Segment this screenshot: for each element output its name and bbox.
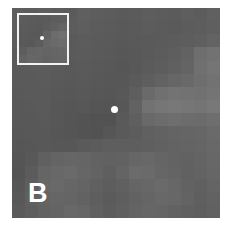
pixel-cell [155, 34, 168, 47]
inset-marker-dot [40, 36, 44, 40]
pixel-cell [77, 21, 90, 34]
pixel-cell [12, 74, 25, 87]
pixel-cell [207, 166, 220, 179]
pixel-cell [142, 205, 155, 218]
pixel-cell [77, 192, 90, 205]
pixel-cell [168, 87, 181, 100]
pixel-cell [155, 179, 168, 192]
pixel-cell [168, 179, 181, 192]
inset-pixel-cell [27, 15, 35, 23]
pixel-cell [181, 152, 194, 165]
pixel-cell [90, 205, 103, 218]
pixel-cell [64, 192, 77, 205]
pixel-cell [181, 47, 194, 60]
pixel-cell [103, 192, 116, 205]
inset-pixel-cell [51, 15, 59, 23]
pixel-cell [77, 139, 90, 152]
pixel-cell [155, 100, 168, 113]
pixel-cell [116, 179, 129, 192]
inset-pixel-cell [43, 15, 51, 23]
pixel-cell [116, 113, 129, 126]
pixel-cell [207, 100, 220, 113]
inset-pixel-cell [51, 39, 59, 47]
pixel-cell [168, 8, 181, 21]
pixel-cell [194, 205, 207, 218]
pixel-cell [194, 34, 207, 47]
inset-overview [17, 13, 69, 65]
pixel-cell [12, 179, 25, 192]
pixel-cell [142, 100, 155, 113]
inset-pixel-cell [59, 47, 67, 55]
inset-pixel-cell [35, 23, 43, 31]
pixel-cell [129, 8, 142, 21]
pixel-cell [116, 192, 129, 205]
pixel-cell [38, 126, 51, 139]
pixel-cell [207, 21, 220, 34]
pixel-cell [155, 152, 168, 165]
pixel-cell [155, 21, 168, 34]
pixel-cell [77, 100, 90, 113]
pixel-cell [12, 152, 25, 165]
inset-pixel-cell [19, 55, 27, 63]
pixel-cell [116, 126, 129, 139]
pixel-cell [103, 113, 116, 126]
pixel-cell [181, 205, 194, 218]
pixel-cell [25, 74, 38, 87]
pixel-cell [77, 61, 90, 74]
pixel-cell [77, 152, 90, 165]
pixel-cell [90, 74, 103, 87]
pixel-cell [129, 47, 142, 60]
pixel-cell [116, 74, 129, 87]
pixel-cell [103, 34, 116, 47]
pixel-cell [194, 166, 207, 179]
pixel-cell [168, 152, 181, 165]
pixel-cell [168, 61, 181, 74]
pixel-cell [142, 152, 155, 165]
pixel-cell [207, 152, 220, 165]
pixel-cell [103, 47, 116, 60]
pixel-cell [168, 74, 181, 87]
pixel-cell [194, 113, 207, 126]
pixel-cell [168, 21, 181, 34]
pixel-cell [194, 152, 207, 165]
pixel-cell [90, 21, 103, 34]
pixel-cell [155, 166, 168, 179]
pixel-cell [142, 126, 155, 139]
pixel-cell [116, 8, 129, 21]
pixel-cell [12, 126, 25, 139]
inset-pixel-cell [27, 47, 35, 55]
pixel-cell [194, 8, 207, 21]
micrograph-panel: B [12, 8, 220, 218]
pixel-cell [194, 126, 207, 139]
pixel-cell [90, 126, 103, 139]
pixel-cell [51, 87, 64, 100]
pixel-cell [207, 139, 220, 152]
pixel-cell [64, 152, 77, 165]
pixel-cell [64, 100, 77, 113]
pixel-cell [90, 34, 103, 47]
pixel-cell [103, 74, 116, 87]
pixel-cell [129, 34, 142, 47]
pixel-cell [129, 87, 142, 100]
pixel-cell [12, 113, 25, 126]
pixel-cell [25, 87, 38, 100]
pixel-cell [207, 126, 220, 139]
pixel-cell [51, 166, 64, 179]
pixel-cell [194, 192, 207, 205]
pixel-cell [25, 126, 38, 139]
pixel-cell [116, 21, 129, 34]
pixel-cell [129, 61, 142, 74]
pixel-cell [181, 8, 194, 21]
pixel-cell [103, 139, 116, 152]
pixel-cell [194, 179, 207, 192]
pixel-cell [155, 113, 168, 126]
pixel-cell [116, 152, 129, 165]
pixel-cell [168, 205, 181, 218]
pixel-cell [51, 139, 64, 152]
pixel-cell [90, 179, 103, 192]
pixel-cell [64, 126, 77, 139]
pixel-cell [142, 166, 155, 179]
pixel-cell [116, 205, 129, 218]
inset-pixel-cell [19, 31, 27, 39]
pixel-cell [103, 126, 116, 139]
